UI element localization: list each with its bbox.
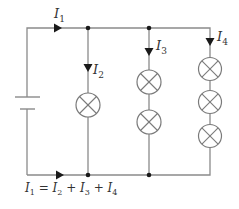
junction-dot bbox=[86, 173, 91, 178]
circuit-wires bbox=[27, 28, 210, 175]
lamp-icon bbox=[137, 110, 161, 134]
kirchhoff-equation: I1 = I2 + I3 + I4 bbox=[25, 182, 117, 197]
junction-dot bbox=[147, 173, 152, 178]
junction-dot bbox=[147, 26, 152, 31]
current-arrow-i4-icon bbox=[206, 38, 215, 46]
current-arrow-return-icon bbox=[56, 171, 64, 180]
lamp-icon bbox=[76, 93, 100, 117]
current-arrow-i3-icon bbox=[145, 48, 154, 56]
lamp-icon bbox=[199, 91, 222, 114]
current-arrow-i1-icon bbox=[54, 24, 62, 33]
label-i2: I2 bbox=[93, 63, 104, 80]
label-i1: I1 bbox=[54, 7, 65, 24]
battery-icon bbox=[15, 97, 40, 109]
label-i4: I4 bbox=[217, 30, 228, 47]
label-i3: I3 bbox=[156, 39, 167, 56]
junction-dot bbox=[86, 26, 91, 31]
current-arrow-i2-icon bbox=[84, 64, 93, 72]
lamp-icon bbox=[199, 125, 222, 148]
lamp-icon bbox=[137, 70, 161, 94]
lamp-icon bbox=[199, 58, 222, 81]
circuit-diagram bbox=[0, 0, 239, 209]
